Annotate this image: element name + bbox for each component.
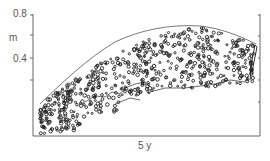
- plot-area: [0, 0, 270, 161]
- vegetation-marks: [39, 27, 255, 135]
